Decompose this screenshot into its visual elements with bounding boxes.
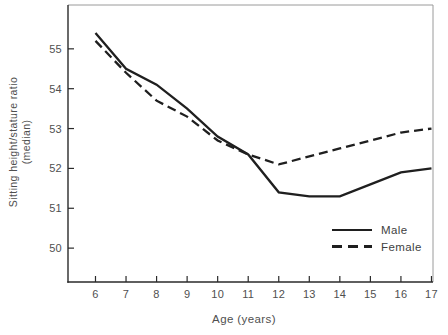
y-tick-label: 55 <box>49 43 62 55</box>
x-tick-label: 17 <box>425 288 438 300</box>
x-tick-label: 16 <box>395 288 408 300</box>
legend-label-male: Male <box>381 224 408 236</box>
x-tick-label: 12 <box>272 288 285 300</box>
male-line <box>95 33 431 196</box>
x-tick-label: 7 <box>123 288 129 300</box>
y-tick-label: 50 <box>49 242 62 254</box>
x-tick-label: 8 <box>153 288 159 300</box>
x-axis-label: Age (years) <box>168 313 320 325</box>
legend-item-female: Female <box>332 238 422 255</box>
x-tick-label: 14 <box>333 288 346 300</box>
chart-svg: 50515253545567891011121314151617 <box>0 0 448 335</box>
female-line <box>95 41 431 165</box>
y-axis-label-line1: Sitting height/stature ratio <box>7 52 20 232</box>
y-axis-label-line2: (median) <box>20 52 33 232</box>
legend-label-female: Female <box>381 241 422 253</box>
male-line-swatch <box>332 229 372 231</box>
x-tick-label: 13 <box>303 288 316 300</box>
x-tick-label: 10 <box>211 288 224 300</box>
y-tick-label: 51 <box>49 202 62 214</box>
x-tick-label: 6 <box>92 288 98 300</box>
legend-item-male: Male <box>332 221 422 238</box>
x-tick-label: 15 <box>364 288 377 300</box>
x-tick-label: 11 <box>242 288 254 300</box>
chart-figure: 50515253545567891011121314151617 Sitting… <box>0 0 448 335</box>
y-tick-label: 53 <box>49 123 62 135</box>
y-tick-label: 52 <box>49 162 62 174</box>
y-tick-label: 54 <box>49 83 62 95</box>
legend: Male Female <box>332 221 422 255</box>
female-line-swatch <box>332 245 372 248</box>
y-axis-label: Sitting height/stature ratio (median) <box>7 52 33 232</box>
x-tick-label: 9 <box>184 288 190 300</box>
